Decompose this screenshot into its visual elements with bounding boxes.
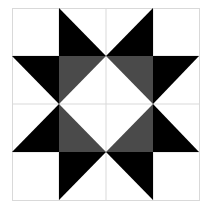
quilt-block-diagram bbox=[0, 0, 203, 208]
